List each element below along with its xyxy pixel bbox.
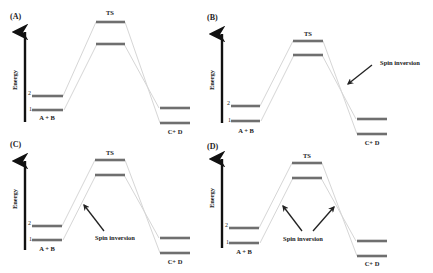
panel-label: (C) [10,140,21,149]
connector-line [124,175,159,238]
reactants-label: A + B [39,114,55,121]
energy-axis-label: Energy [208,69,215,90]
connector-line [125,22,160,123]
panel-b: (B)Energy21A + BTSC+ DSpin inversion [207,13,420,146]
connector-line [62,160,95,226]
connector-line [259,163,292,228]
connector-line [323,41,357,134]
panel-label: (D) [207,142,218,151]
energy-diagram-figure: (A)Energy21A + BTSC+ D(B)Energy21A + BTS… [0,0,433,273]
spin-inversion-label: Spin inversion [283,235,323,242]
level-label-2: 2 [28,220,31,226]
connector-line [63,22,96,96]
connector-line [260,41,293,106]
ts-label: TS [106,9,114,16]
products-label: C+ D [168,258,183,265]
spin-inversion-arrow-icon [283,206,302,231]
level-label-1: 1 [228,117,231,123]
connector-line [261,55,294,121]
reactants-label: A + B [39,245,55,252]
panel-label: (A) [10,12,21,21]
ts-label: TS [106,149,114,156]
ts-label: TS [303,152,311,159]
energy-axis-label: Energy [11,188,18,209]
ts-label: TS [304,30,312,37]
reactants-label: A + B [236,248,252,255]
connector-line [322,55,356,119]
connector-line [64,44,97,110]
products-label: C+ D [168,128,183,135]
connector-line [321,178,356,241]
level-label-2: 2 [28,90,31,96]
connector-line [322,163,357,256]
energy-axis-label: Energy [208,187,215,208]
energy-axis-label: Energy [11,69,18,90]
level-label-1: 1 [29,106,32,112]
spin-inversion-arrow-icon [84,205,104,231]
connector-line [63,175,96,240]
panel-d: (D)Energy21A + BTSC+ DSpin inversion [207,142,387,267]
panel-label: (B) [207,13,218,22]
spin-inversion-arrow-icon [313,207,334,231]
level-label-1: 1 [226,239,229,245]
level-label-2: 2 [225,222,228,228]
connector-line [260,178,293,243]
reactants-label: A + B [238,127,254,134]
panel-c: (C)Energy21A + BTSC+ DSpin inversion [10,140,190,265]
spin-inversion-label: Spin inversion [380,59,420,66]
level-label-1: 1 [29,236,32,242]
spin-inversion-label: Spin inversion [95,234,135,241]
panel-a: (A)Energy21A + BTSC+ D [10,9,190,135]
level-label-2: 2 [227,100,230,106]
spin-inversion-arrow-icon [348,65,372,84]
products-label: C+ D [365,139,380,146]
connector-line [124,44,159,108]
products-label: C+ D [365,260,380,267]
